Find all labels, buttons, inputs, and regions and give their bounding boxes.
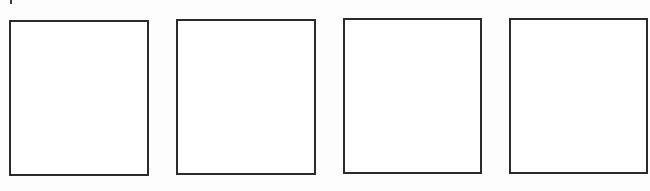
- frame-2: [176, 19, 316, 175]
- frame-4: [509, 18, 648, 174]
- scanned-page: [0, 0, 650, 191]
- frame-3: [343, 18, 482, 174]
- frame-1: [9, 20, 149, 176]
- top-left-tick-mark: [10, 0, 12, 4]
